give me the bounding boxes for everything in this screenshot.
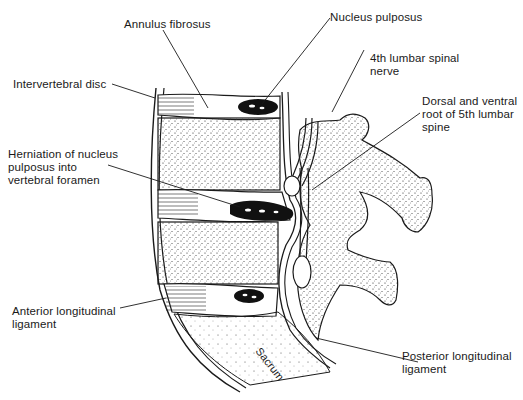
leader-4th-lumbar-nerve xyxy=(332,50,364,112)
leader-nucleus-pulposus xyxy=(262,18,330,104)
label-herniation: Herniation of nucleus pulposus into vert… xyxy=(8,148,118,187)
label-4th-lumbar-nerve: 4th lumbar spinal nerve xyxy=(370,52,459,78)
label-posterior-ligament: Posterior longitudinal ligament xyxy=(402,350,512,376)
label-nucleus-pulposus: Nucleus pulposus xyxy=(330,11,422,24)
label-intervertebral-disc: Intervertebral disc xyxy=(13,78,106,91)
nucleus-pulposus-lower xyxy=(234,289,264,303)
top-intervertebral-disc xyxy=(158,94,280,120)
lower-intervertebral-disc xyxy=(164,284,278,317)
dorsal-root-ganglion-l5 xyxy=(293,256,311,288)
herniated-disc xyxy=(158,190,293,222)
vertebra-l5 xyxy=(158,222,278,284)
leader-intervertebral-disc xyxy=(112,84,155,98)
posterior-vertebral-processes xyxy=(298,114,433,340)
nucleus-pulposus-top xyxy=(238,99,278,115)
label-anterior-ligament: Anterior longitudinal ligament xyxy=(12,305,116,331)
diagram-canvas: Annulus fibrosus Nucleus pulposus Interv… xyxy=(0,0,523,400)
dorsal-root-ganglion-l4 xyxy=(284,176,300,196)
vertebra-l4 xyxy=(158,118,280,190)
label-dorsal-ventral-root: Dorsal and ventral root of 5th lumbar sp… xyxy=(422,95,517,134)
leader-anterior-ligament xyxy=(120,298,166,308)
label-annulus-fibrosus: Annulus fibrosus xyxy=(124,18,211,31)
